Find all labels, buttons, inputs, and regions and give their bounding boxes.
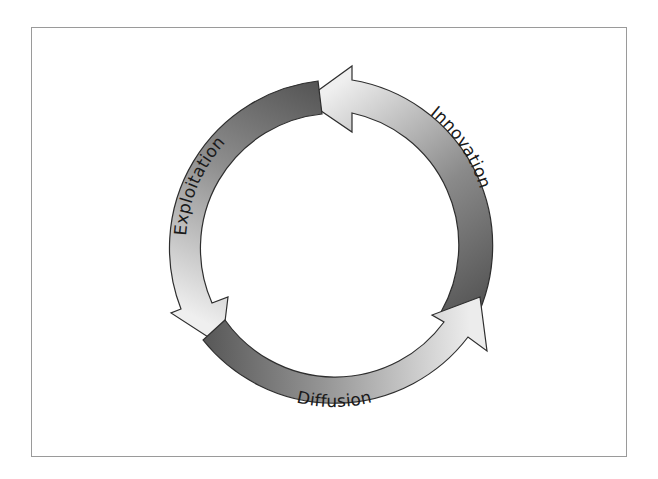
innovation-arrow xyxy=(305,66,493,330)
cycle-diagram: Innovation Exploitation Diffusion xyxy=(0,0,658,479)
diffusion-arrow xyxy=(203,297,487,403)
